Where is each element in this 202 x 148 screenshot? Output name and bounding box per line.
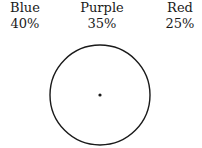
circle-diagram [0,0,202,148]
center-dot [98,93,101,96]
